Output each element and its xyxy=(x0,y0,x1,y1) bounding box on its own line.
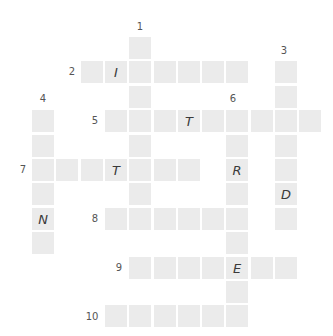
crossword-cell-r1-c5[interactable] xyxy=(154,61,176,83)
crossword-cell-r11-c8[interactable] xyxy=(226,305,248,327)
crossword-cell-r1-c8[interactable] xyxy=(226,61,248,83)
crossword-cell-r5-c3[interactable]: T xyxy=(105,159,127,181)
crossword-cell-r7-c8[interactable] xyxy=(226,208,248,230)
crossword-cell-r2-c4[interactable] xyxy=(129,86,151,108)
crossword-cell-r6-c8[interactable] xyxy=(226,183,248,205)
crossword-cell-r1-c3[interactable]: I xyxy=(105,61,127,83)
crossword-cell-r3-c7[interactable] xyxy=(202,110,224,132)
crossword-cell-r4-c4[interactable] xyxy=(129,135,151,157)
crossword-cell-r7-c5[interactable] xyxy=(154,208,176,230)
crossword-cell-r7-c0[interactable]: N xyxy=(32,208,54,230)
clue-number-6: 6 xyxy=(230,94,236,104)
crossword-cell-r3-c10[interactable] xyxy=(275,110,297,132)
crossword-cell-r3-c4[interactable] xyxy=(129,110,151,132)
crossword-cell-r5-c6[interactable] xyxy=(178,159,200,181)
crossword-cell-r9-c5[interactable] xyxy=(154,257,176,279)
clue-number-7: 7 xyxy=(20,165,26,175)
crossword-cell-r11-c6[interactable] xyxy=(178,305,200,327)
crossword-cell-r6-c10[interactable]: D xyxy=(275,183,297,205)
crossword-cell-r1-c2[interactable] xyxy=(81,61,103,83)
crossword-cell-r9-c10[interactable] xyxy=(275,257,297,279)
clue-number-9: 9 xyxy=(116,263,122,273)
crossword-cell-r7-c3[interactable] xyxy=(105,208,127,230)
crossword-cell-r3-c9[interactable] xyxy=(251,110,273,132)
crossword-cell-r9-c9[interactable] xyxy=(251,257,273,279)
crossword-cell-r5-c2[interactable] xyxy=(81,159,103,181)
clue-number-2: 2 xyxy=(69,67,75,77)
crossword-cell-r6-c4[interactable] xyxy=(129,183,151,205)
crossword-cell-r5-c10[interactable] xyxy=(275,159,297,181)
crossword-cell-r9-c7[interactable] xyxy=(202,257,224,279)
clue-number-1: 1 xyxy=(137,22,143,32)
clue-number-3: 3 xyxy=(281,46,287,56)
crossword-cell-r1-c7[interactable] xyxy=(202,61,224,83)
crossword-cell-r2-c10[interactable] xyxy=(275,86,297,108)
crossword-cell-r0-c4[interactable] xyxy=(129,37,151,59)
crossword-cell-r7-c7[interactable] xyxy=(202,208,224,230)
crossword-cell-r1-c6[interactable] xyxy=(178,61,200,83)
crossword-cell-r3-c0[interactable] xyxy=(32,110,54,132)
crossword-cell-r1-c10[interactable] xyxy=(275,61,297,83)
clue-number-5: 5 xyxy=(92,116,98,126)
crossword-cell-r4-c0[interactable] xyxy=(32,135,54,157)
crossword-cell-r3-c8[interactable] xyxy=(226,110,248,132)
crossword-cell-r7-c4[interactable] xyxy=(129,208,151,230)
crossword-cell-r3-c3[interactable] xyxy=(105,110,127,132)
crossword-cell-r8-c0[interactable] xyxy=(32,232,54,254)
crossword-cell-r9-c8[interactable]: E xyxy=(226,257,248,279)
crossword-cell-r5-c1[interactable] xyxy=(56,159,78,181)
crossword-cell-r11-c5[interactable] xyxy=(154,305,176,327)
crossword-grid: IDNTRET12345678910 xyxy=(0,0,333,336)
crossword-cell-r3-c5[interactable] xyxy=(154,110,176,132)
crossword-cell-r5-c8[interactable]: R xyxy=(226,159,248,181)
crossword-cell-r5-c0[interactable] xyxy=(32,159,54,181)
clue-number-4: 4 xyxy=(40,94,46,104)
crossword-cell-r3-c6[interactable]: T xyxy=(178,110,200,132)
crossword-cell-r5-c5[interactable] xyxy=(154,159,176,181)
crossword-cell-r11-c3[interactable] xyxy=(105,305,127,327)
crossword-cell-r9-c4[interactable] xyxy=(129,257,151,279)
crossword-cell-r7-c10[interactable] xyxy=(275,208,297,230)
crossword-cell-r1-c4[interactable] xyxy=(129,61,151,83)
crossword-cell-r5-c4[interactable] xyxy=(129,159,151,181)
clue-number-8: 8 xyxy=(92,214,98,224)
crossword-cell-r10-c8[interactable] xyxy=(226,281,248,303)
crossword-cell-r8-c8[interactable] xyxy=(226,232,248,254)
crossword-cell-r9-c6[interactable] xyxy=(178,257,200,279)
crossword-cell-r3-c11[interactable] xyxy=(299,110,321,132)
crossword-cell-r4-c10[interactable] xyxy=(275,135,297,157)
clue-number-10: 10 xyxy=(86,312,99,322)
crossword-cell-r7-c6[interactable] xyxy=(178,208,200,230)
crossword-cell-r4-c8[interactable] xyxy=(226,135,248,157)
crossword-cell-r11-c4[interactable] xyxy=(129,305,151,327)
crossword-cell-r6-c0[interactable] xyxy=(32,183,54,205)
crossword-cell-r11-c7[interactable] xyxy=(202,305,224,327)
